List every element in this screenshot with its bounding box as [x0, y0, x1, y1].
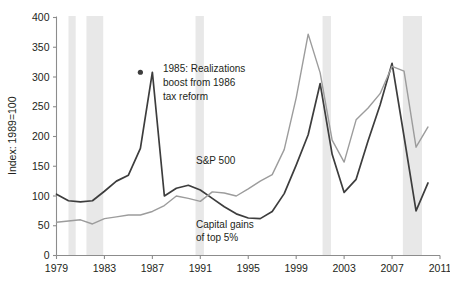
y-tick-label-150: 150: [32, 160, 50, 172]
y-tick-label-400: 400: [32, 11, 50, 23]
annotation-line-2: boost from 1986: [163, 77, 236, 88]
sp500-series-label: S&P 500: [196, 155, 236, 166]
x-tick-label-2003: 2003: [332, 262, 356, 274]
recession-band-1: [68, 16, 75, 256]
line-chart: 050100150200250300350400 197919831987199…: [0, 0, 450, 286]
y-tick-label-100: 100: [32, 190, 50, 202]
series-inline-labels: S&P 500 Capital gains of top 5%: [196, 155, 254, 243]
x-tick-label-1999: 1999: [285, 262, 309, 274]
x-tick-label-1995: 1995: [237, 262, 261, 274]
x-tick-label-1987: 1987: [141, 262, 165, 274]
x-axis: 197919831987199119951999200320072011: [45, 256, 450, 274]
annotation-marker-dot: [138, 70, 143, 75]
y-tick-label-350: 350: [32, 41, 50, 53]
y-tick-label-200: 200: [32, 130, 50, 142]
annotation-line-1: 1985: Realizations: [163, 63, 245, 74]
series-line-capital-gains-of-top-5: [57, 63, 429, 218]
y-tick-label-300: 300: [32, 71, 50, 83]
y-axis-ticks: 050100150200250300350400: [32, 11, 57, 261]
y-tick-label-0: 0: [44, 249, 50, 261]
capital-gains-series-label-line-2: of top 5%: [196, 232, 238, 243]
y-tick-label-250: 250: [32, 100, 50, 112]
y-axis-title: Index: 1989=100: [6, 96, 18, 175]
y-axis: 050100150200250300350400: [32, 11, 57, 261]
y-tick-label-50: 50: [38, 219, 50, 231]
x-tick-label-2007: 2007: [380, 262, 404, 274]
capital-gains-series-label-line-1: Capital gains: [196, 219, 254, 230]
x-tick-label-1979: 1979: [45, 262, 69, 274]
annotation-line-3: tax reform: [163, 91, 208, 102]
x-axis-ticks: 197919831987199119951999200320072011: [45, 256, 450, 274]
recession-band-5: [403, 16, 422, 256]
x-tick-label-1991: 1991: [189, 262, 213, 274]
x-tick-label-2011: 2011: [429, 262, 450, 274]
chart-figure: 050100150200250300350400 197919831987199…: [0, 0, 450, 286]
x-tick-label-1983: 1983: [93, 262, 117, 274]
